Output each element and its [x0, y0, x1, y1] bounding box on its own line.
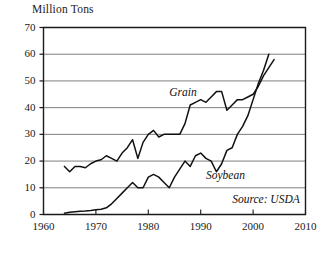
series-label-grain: Grain	[169, 86, 196, 98]
tickmarks-group	[40, 28, 306, 215]
y-tick-label: 10	[10, 181, 36, 193]
y-tick-label: 20	[10, 154, 36, 166]
chart-figure: Million Tons 010203040506070 19601970198…	[0, 0, 326, 254]
x-tick-label: 2010	[286, 220, 326, 232]
chart-canvas	[0, 0, 326, 254]
y-tick-label: 50	[10, 74, 36, 86]
y-tick-label: 30	[10, 127, 36, 139]
y-tick-label: 60	[10, 47, 36, 59]
x-tick-label: 1960	[24, 220, 64, 232]
x-tick-label: 1980	[128, 220, 168, 232]
y-tick-label: 70	[10, 21, 36, 33]
x-tick-label: 1990	[181, 220, 221, 232]
x-tick-label: 2000	[233, 220, 273, 232]
plot-frame	[44, 28, 306, 215]
series-line-grain	[64, 60, 274, 172]
y-tick-label: 0	[10, 208, 36, 220]
y-tick-label: 40	[10, 101, 36, 113]
source-note: Source: USDA	[232, 193, 300, 205]
series-label-soybean: Soybean	[206, 169, 245, 181]
x-tick-label: 1970	[76, 220, 116, 232]
series-paths-group	[64, 54, 274, 213]
